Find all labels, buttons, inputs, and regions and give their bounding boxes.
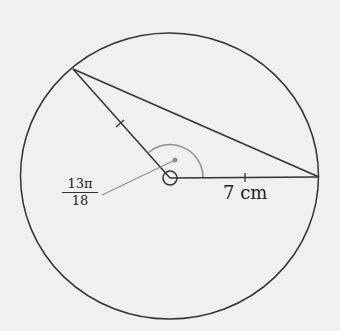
angle-numerator: 13π bbox=[62, 177, 98, 193]
radius-to-top-left bbox=[73, 69, 170, 178]
angle-label: 13π 18 bbox=[62, 177, 98, 208]
angle-leader-dot bbox=[173, 158, 178, 163]
diagram-canvas bbox=[0, 0, 340, 331]
chord bbox=[73, 69, 319, 177]
angle-leader-line bbox=[102, 160, 175, 195]
angle-denominator: 18 bbox=[62, 193, 98, 208]
circle bbox=[21, 33, 319, 319]
radius-length-label: 7 cm bbox=[223, 182, 267, 203]
